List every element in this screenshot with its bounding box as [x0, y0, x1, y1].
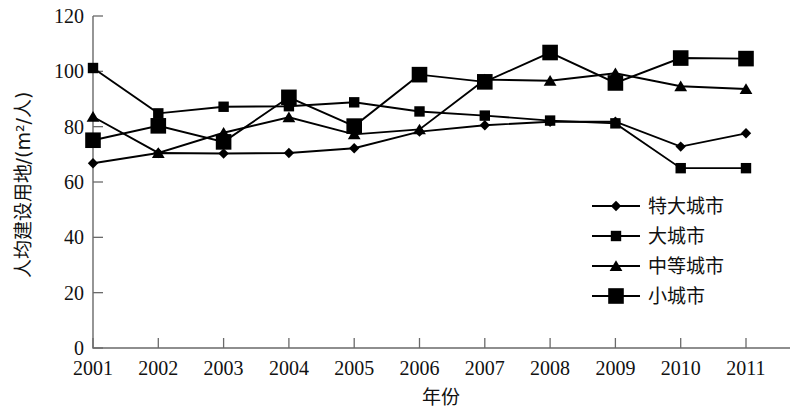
data-point-marker: [676, 141, 686, 151]
data-point-marker: [283, 111, 296, 122]
data-point-marker: [412, 67, 428, 83]
y-tick-label: 60: [64, 171, 84, 193]
y-tick-label: 20: [64, 282, 84, 304]
y-tick-label: 120: [54, 5, 84, 27]
data-point-marker: [218, 102, 228, 112]
x-tick-label: 2002: [138, 357, 178, 379]
legend-marker-icon: [611, 231, 621, 241]
legend-item-label: 特大城市: [648, 195, 724, 217]
data-series-group: [85, 45, 754, 174]
legend-item-特大城市[interactable]: 特大城市: [592, 195, 724, 217]
data-point-marker: [741, 128, 751, 138]
x-tick-label: 2006: [400, 357, 440, 379]
x-tick-label: 2008: [530, 357, 570, 379]
data-point-marker: [477, 74, 493, 90]
data-point-marker: [608, 75, 624, 91]
data-point-marker: [151, 118, 167, 134]
data-point-marker: [542, 45, 558, 61]
x-tick-label: 2004: [269, 357, 309, 379]
data-point-marker: [349, 143, 359, 153]
data-point-marker: [281, 90, 297, 106]
y-tick-label: 80: [64, 116, 84, 138]
x-tick-label: 2001: [73, 357, 113, 379]
x-tick-label: 2010: [661, 357, 701, 379]
data-point-marker: [216, 134, 232, 150]
data-point-marker: [610, 118, 620, 128]
legend-item-label: 中等城市: [648, 255, 724, 277]
legend-item-label: 大城市: [648, 225, 705, 247]
legend-marker-icon: [608, 288, 624, 304]
chart-legend: 特大城市大城市中等城市小城市: [592, 195, 724, 307]
data-point-marker: [676, 163, 686, 173]
data-point-marker: [218, 148, 228, 158]
legend-item-中等城市[interactable]: 中等城市: [592, 255, 724, 277]
data-point-marker: [741, 163, 751, 173]
x-tick-label: 2005: [334, 357, 374, 379]
chart-container: 人均建设用地/(m²/人) 020406080100120 2001200220…: [0, 0, 808, 412]
x-axis-ticks: [93, 338, 746, 348]
y-tick-label: 0: [74, 337, 84, 359]
x-axis-tick-labels: 2001200220032004200520062007200820092010…: [73, 357, 766, 379]
data-point-marker: [87, 111, 100, 122]
x-tick-label: 2009: [595, 357, 635, 379]
y-axis-tick-labels: 020406080100120: [54, 5, 84, 359]
data-point-marker: [414, 106, 424, 116]
x-axis-title-label: 年份: [422, 386, 460, 408]
legend-item-label: 小城市: [648, 285, 705, 307]
legend-marker-icon: [611, 201, 621, 211]
legend-item-大城市[interactable]: 大城市: [592, 225, 705, 247]
legend-item-小城市[interactable]: 小城市: [592, 285, 705, 307]
y-axis-title-label: 人均建设用地/(m²/人): [12, 92, 34, 279]
data-point-marker: [480, 120, 490, 130]
x-tick-label: 2007: [465, 357, 505, 379]
data-point-marker: [346, 118, 362, 134]
x-tick-label: 2011: [726, 357, 765, 379]
data-point-marker: [673, 50, 689, 66]
data-point-marker: [88, 158, 98, 168]
y-tick-label: 40: [64, 226, 84, 248]
y-tick-label: 100: [54, 60, 84, 82]
data-point-marker: [153, 108, 163, 118]
data-point-marker: [88, 63, 98, 73]
data-point-marker: [85, 132, 101, 148]
data-point-marker: [480, 110, 490, 120]
line-chart-svg: 人均建设用地/(m²/人) 020406080100120 2001200220…: [0, 0, 808, 412]
data-point-marker: [284, 148, 294, 158]
x-tick-label: 2003: [204, 357, 244, 379]
y-axis-title: 人均建设用地/(m²/人): [12, 92, 34, 279]
data-point-marker: [545, 115, 555, 125]
data-point-marker: [349, 97, 359, 107]
data-point-marker: [738, 51, 754, 67]
